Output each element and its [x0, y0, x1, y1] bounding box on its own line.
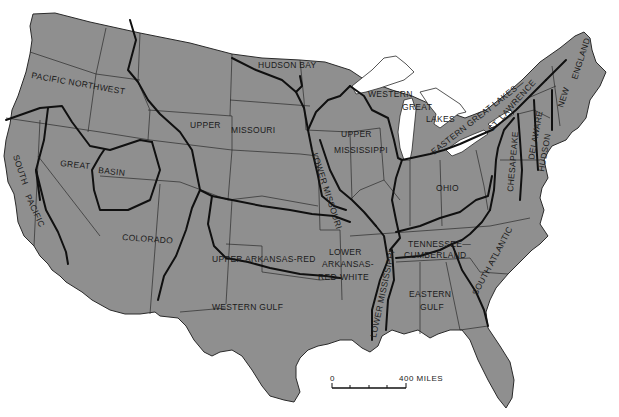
label-upper-mississippi-1: UPPER	[341, 129, 372, 139]
label-western-gulf: WESTERN GULF	[212, 302, 283, 312]
label-lower-arkansas-1: LOWER	[329, 247, 362, 257]
scale-start-label: 0	[330, 374, 335, 383]
label-lower-arkansas-2: ARKANSAS-	[322, 259, 374, 269]
water-resource-regions-map: PACIFIC NORTHWEST HUDSON BAY UPPER MISSO…	[0, 0, 619, 417]
scale-end-label: 400 MILES	[399, 374, 443, 383]
label-tennessee-cumberland-2: CUMBERLAND	[404, 250, 467, 260]
label-eastern-gulf-1: EASTERN	[409, 289, 451, 299]
label-western-great-lakes-2: GREAT	[402, 102, 432, 112]
label-hudson-bay: HUDSON BAY	[258, 60, 317, 70]
label-lower-arkansas-3: RED-WHITE	[318, 272, 369, 282]
label-tennessee-cumberland-1: TENNESSEE—	[408, 239, 471, 249]
label-upper-mississippi-2: MISSISSIPPI	[334, 145, 388, 155]
map-canvas: PACIFIC NORTHWEST HUDSON BAY UPPER MISSO…	[0, 0, 619, 417]
scale-bar: 0 400 MILES	[330, 374, 443, 388]
label-upper-missouri-1: UPPER	[190, 120, 221, 130]
label-eastern-gulf-2: GULF	[420, 302, 444, 312]
label-upper-arkansas-red: UPPER ARKANSAS-RED	[212, 254, 316, 264]
label-ohio: OHIO	[436, 183, 459, 193]
us-landmass	[4, 13, 606, 408]
label-western-great-lakes-1: WESTERN	[368, 89, 413, 99]
label-upper-missouri-2: MISSOURI	[231, 125, 275, 135]
label-western-great-lakes-3: LAKES	[426, 114, 455, 124]
